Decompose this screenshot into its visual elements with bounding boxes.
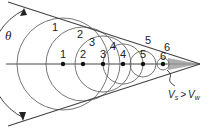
velocity-condition: Vs>Vw xyxy=(168,89,201,101)
svg-text:2: 2 xyxy=(77,28,83,40)
svg-text:1: 1 xyxy=(60,48,66,60)
cone-tip-shading xyxy=(168,58,200,70)
svg-text:2: 2 xyxy=(80,48,86,60)
svg-text:6: 6 xyxy=(164,41,170,53)
svg-text:4: 4 xyxy=(110,40,116,52)
arrow-down-icon xyxy=(19,112,26,121)
svg-text:5: 5 xyxy=(145,34,151,46)
mach-cone-diagram: 1 2 3 4 5 6 1 2 3 4 5 6 θ Vs>Vw xyxy=(0,0,212,129)
theta-label: θ xyxy=(5,28,12,43)
svg-text:4: 4 xyxy=(120,48,126,60)
svg-text:1: 1 xyxy=(52,21,58,33)
svg-text:5: 5 xyxy=(140,48,146,60)
svg-text:3: 3 xyxy=(89,36,95,48)
svg-text:3: 3 xyxy=(100,48,106,60)
